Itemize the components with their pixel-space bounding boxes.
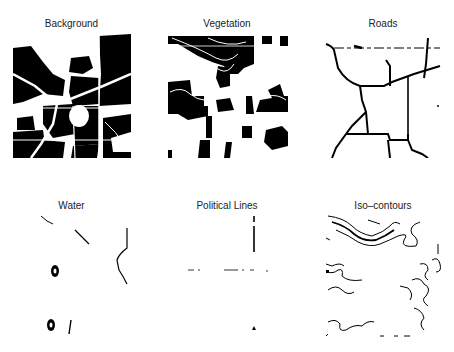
panel-title-roads: Roads [324,18,442,29]
background-map-image [13,34,131,158]
panel-title-iso-contours: Iso–contours [324,200,442,211]
water-map-image [13,214,131,338]
panel-title-political-lines: Political Lines [168,200,286,211]
panel-title-vegetation: Vegetation [168,18,286,29]
panel-title-background: Background [13,18,130,29]
iso-contours-map-image [324,214,444,338]
panel-title-water: Water [13,200,130,211]
political-lines-map-image [168,214,288,338]
roads-map-image [324,34,444,158]
vegetation-map-image [168,34,288,158]
